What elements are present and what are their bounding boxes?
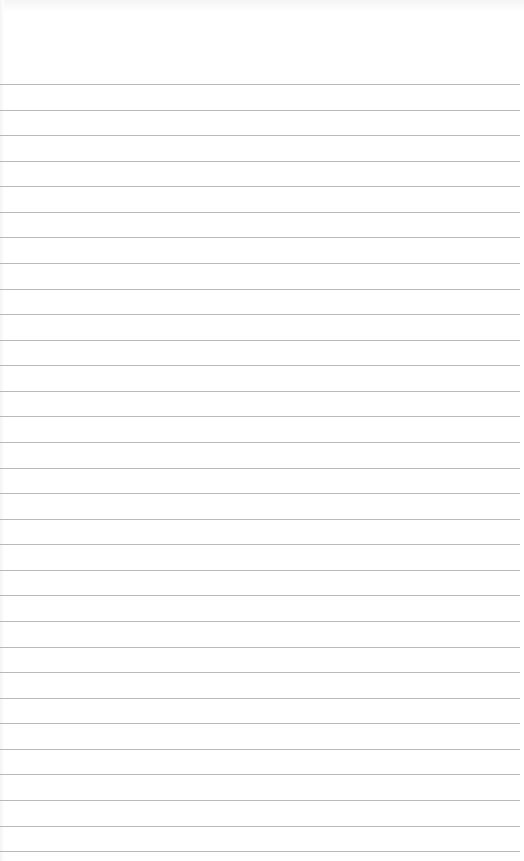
ruled-line [0, 391, 520, 392]
ruled-line [0, 365, 520, 366]
ruled-line [0, 672, 520, 673]
ruled-line [0, 186, 520, 187]
ruled-line [0, 237, 520, 238]
ruled-line [0, 468, 520, 469]
paper-top-edge [0, 0, 524, 12]
ruled-line [0, 493, 520, 494]
ruled-line [0, 570, 520, 571]
ruled-line [0, 595, 520, 596]
ruled-line [0, 851, 520, 852]
ruled-line [0, 135, 520, 136]
paper-left-edge [0, 0, 4, 861]
ruled-line [0, 519, 520, 520]
ruled-line [0, 442, 520, 443]
ruled-line [0, 212, 520, 213]
ruled-line [0, 826, 520, 827]
ruled-line [0, 698, 520, 699]
ruled-line [0, 161, 520, 162]
ruled-line [0, 416, 520, 417]
ruled-line [0, 774, 520, 775]
ruled-line [0, 621, 520, 622]
ruled-line [0, 723, 520, 724]
ruled-line [0, 340, 520, 341]
ruled-line [0, 110, 520, 111]
ruled-line [0, 314, 520, 315]
ruled-line [0, 263, 520, 264]
ruled-line [0, 800, 520, 801]
ruled-line [0, 289, 520, 290]
ruled-line [0, 84, 520, 85]
ruled-line [0, 647, 520, 648]
ruled-line [0, 749, 520, 750]
ruled-line [0, 544, 520, 545]
